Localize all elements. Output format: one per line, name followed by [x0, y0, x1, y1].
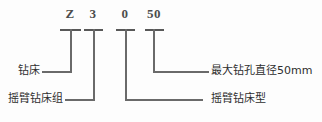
- label-radial-group: 摇臂钻床组: [0, 92, 63, 105]
- label-drill-machine: 钻床: [0, 64, 40, 77]
- tbar-stem-0: [125, 29, 127, 101]
- model-designation-diagram: Z 3 0 50 钻床 摇臂钻床组 最大钻孔直径50mm 摇臂钻床型: [0, 0, 322, 122]
- leader-run-max-diameter: [153, 71, 209, 73]
- code-char-50: 50: [134, 6, 174, 22]
- leader-run-radial-type: [125, 99, 203, 101]
- leader-run-radial-group: [65, 99, 95, 101]
- label-radial-type: 摇臂钻床型: [211, 92, 266, 105]
- label-max-diameter: 最大钻孔直径50mm: [211, 64, 312, 77]
- tbar-stem-3: [93, 29, 95, 101]
- tbar-stem-z: [70, 29, 72, 73]
- leader-run-drill-machine: [42, 71, 72, 73]
- tbar-stem-50: [153, 29, 155, 73]
